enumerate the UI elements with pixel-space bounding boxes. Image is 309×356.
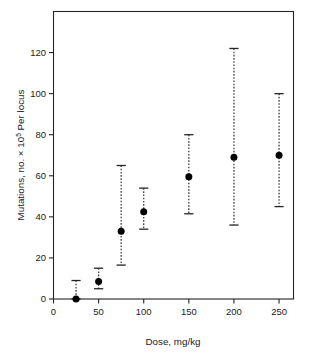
x-tick-label-50: 50 [93, 306, 104, 317]
data-marker-250 [276, 152, 283, 159]
chart-figure: 020406080100120 050100150200250 Dose, mg… [0, 0, 309, 356]
data-marker-50 [95, 278, 102, 285]
data-marker-200 [230, 154, 237, 161]
x-tick-label-250: 250 [271, 306, 287, 317]
x-tick-label-0: 0 [51, 306, 56, 317]
x-tick-label-100: 100 [136, 306, 152, 317]
data-marker-75 [118, 228, 125, 235]
x-tick-label-150: 150 [181, 306, 197, 317]
y-axis-title-times: × 10 [15, 136, 26, 156]
data-marker-150 [185, 173, 192, 180]
x-axis-title: Dose, mg/kg [146, 336, 201, 347]
x-tick-label-200: 200 [226, 306, 242, 317]
y-axis-title-part1: Mutations, no. [15, 156, 26, 220]
data-marker-25 [73, 296, 80, 303]
scatter-plot-svg: 020406080100120 050100150200250 Dose, mg… [0, 0, 309, 356]
y-tick-label-20: 20 [35, 252, 46, 263]
y-axis-title-part2: Per locus [15, 89, 26, 133]
y-tick-label-40: 40 [35, 211, 46, 222]
plot-background [0, 0, 309, 356]
y-tick-label-60: 60 [35, 170, 46, 181]
y-axis-title: Mutations, no. × 105 Per locus [15, 89, 26, 220]
y-tick-label-120: 120 [30, 47, 46, 58]
data-marker-100 [140, 208, 147, 215]
y-tick-label-0: 0 [41, 293, 46, 304]
y-tick-label-80: 80 [35, 129, 46, 140]
y-tick-label-100: 100 [30, 88, 46, 99]
